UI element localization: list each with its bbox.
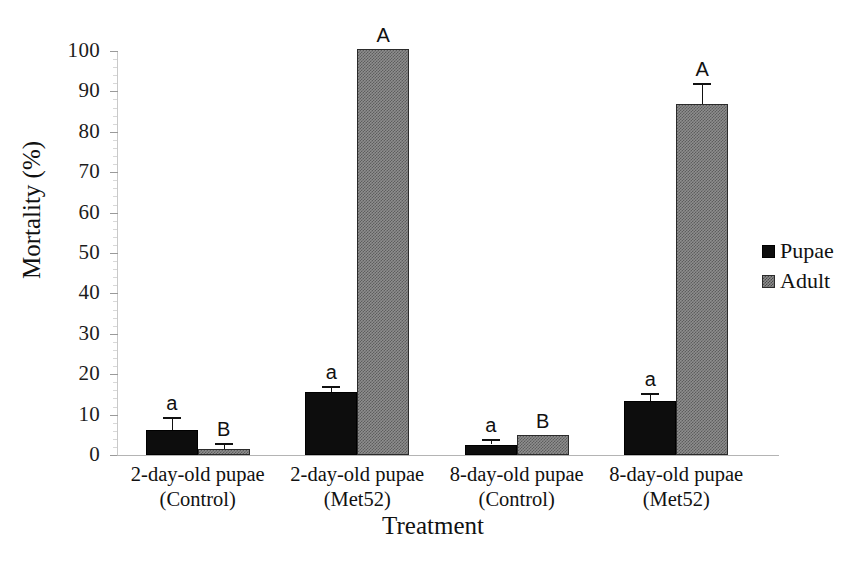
legend-label-adult: Adult [780, 270, 830, 292]
x-axis-category-label-line1: 8-day-old pupae [576, 462, 776, 487]
error-bar [702, 83, 703, 104]
bar-adult [198, 449, 250, 455]
y-axis-tick-label: 70 [54, 161, 100, 182]
y-axis-minor-tick [113, 99, 117, 100]
error-bar-cap [641, 393, 659, 395]
y-axis-tick-label: 50 [54, 242, 100, 263]
significance-letter: a [311, 362, 351, 382]
chart-legend: Pupae Adult [762, 236, 834, 296]
y-axis-minor-tick [113, 124, 117, 125]
legend-label-pupae: Pupae [780, 240, 834, 262]
y-axis-minor-tick [113, 116, 117, 117]
x-axis-line [117, 455, 779, 456]
y-axis-minor-tick [113, 285, 117, 286]
y-axis-minor-tick [113, 156, 117, 157]
y-axis-minor-tick [113, 261, 117, 262]
legend-item-adult[interactable]: Adult [762, 266, 834, 296]
y-axis-minor-tick [113, 342, 117, 343]
y-axis-minor-tick [113, 180, 117, 181]
y-axis-minor-tick [113, 269, 117, 270]
y-axis-minor-tick [113, 447, 117, 448]
error-bar-cap [482, 439, 500, 441]
y-axis-tick-label: 100 [54, 40, 100, 61]
y-axis-minor-tick [113, 245, 117, 246]
y-axis-minor-tick [113, 423, 117, 424]
y-axis-major-tick [110, 51, 118, 52]
y-axis-minor-tick [113, 164, 117, 165]
y-axis-tick-label: 0 [54, 444, 100, 465]
bar-pupae [465, 445, 517, 456]
y-axis-minor-tick [113, 310, 117, 311]
y-axis-major-tick [110, 293, 118, 294]
y-axis-minor-tick [113, 358, 117, 359]
y-axis-major-tick [110, 172, 118, 173]
y-axis-major-tick [110, 415, 118, 416]
bar-chart-figure: Mortality (%) 0102030405060708090100 aBa… [0, 0, 858, 572]
y-axis-minor-tick [113, 67, 117, 68]
significance-letter: A [682, 59, 722, 79]
y-axis-major-tick [110, 253, 118, 254]
y-axis-minor-tick [113, 277, 117, 278]
y-axis-minor-tick [113, 318, 117, 319]
y-axis-tick-label: 80 [54, 121, 100, 142]
legend-item-pupae[interactable]: Pupae [762, 236, 834, 266]
bar-pupae [624, 401, 676, 455]
error-bar-cap [322, 386, 340, 388]
x-axis-category-label-line2: (Met52) [576, 487, 776, 512]
y-axis-minor-tick [113, 59, 117, 60]
y-axis-minor-tick [113, 326, 117, 327]
legend-swatch-pupae-icon [762, 245, 775, 258]
y-axis-tick-label: 20 [54, 363, 100, 384]
x-axis-title-text: Treatment [382, 512, 484, 540]
y-axis-minor-tick [113, 301, 117, 302]
y-axis-minor-tick [113, 366, 117, 367]
bar-pupae [305, 392, 357, 455]
significance-letter: A [363, 25, 403, 45]
y-axis-major-tick [110, 334, 118, 335]
legend-swatch-adult-icon [762, 275, 775, 288]
y-axis-minor-tick [113, 407, 117, 408]
y-axis-minor-tick [113, 148, 117, 149]
y-axis-minor-tick [113, 221, 117, 222]
y-axis-minor-tick [113, 108, 117, 109]
significance-letter: a [630, 369, 670, 389]
error-bar-cap [215, 443, 233, 445]
y-axis-minor-tick [113, 431, 117, 432]
significance-letter: a [471, 415, 511, 435]
y-axis-minor-tick [113, 205, 117, 206]
error-bar-cap [163, 417, 181, 419]
y-axis-minor-tick [113, 439, 117, 440]
y-axis-minor-tick [113, 196, 117, 197]
y-axis-major-tick [110, 374, 118, 375]
y-axis-minor-tick [113, 75, 117, 76]
significance-letter: B [523, 411, 563, 431]
y-axis-minor-tick [113, 229, 117, 230]
y-axis-tick-label: 60 [54, 202, 100, 223]
y-axis-minor-tick [113, 382, 117, 383]
y-axis-tick-label: 40 [54, 282, 100, 303]
significance-letter: a [152, 393, 192, 413]
x-axis-category-label: 8-day-old pupae(Met52) [576, 462, 776, 512]
x-axis-title: Treatment [0, 512, 858, 540]
y-axis-minor-tick [113, 83, 117, 84]
bar-adult [676, 104, 728, 455]
y-axis-minor-tick [113, 140, 117, 141]
bar-adult [517, 435, 569, 455]
bar-pupae [146, 430, 198, 455]
significance-letter: B [204, 419, 244, 439]
y-axis-major-tick [110, 91, 118, 92]
y-axis-minor-tick [113, 398, 117, 399]
y-axis-tick-label: 10 [54, 404, 100, 425]
y-axis-minor-tick [113, 237, 117, 238]
error-bar-cap [693, 83, 711, 85]
y-axis-minor-tick [113, 350, 117, 351]
y-axis-minor-tick [113, 390, 117, 391]
y-axis-major-tick [110, 132, 118, 133]
y-axis-tick-label: 90 [54, 80, 100, 101]
y-axis-tick-label: 30 [54, 323, 100, 344]
bar-adult [357, 49, 409, 455]
y-axis-minor-tick [113, 188, 117, 189]
plot-area: aBaAaBaA [118, 51, 756, 455]
y-axis-title: Mortality (%) [18, 110, 46, 310]
y-axis-major-tick [110, 213, 118, 214]
